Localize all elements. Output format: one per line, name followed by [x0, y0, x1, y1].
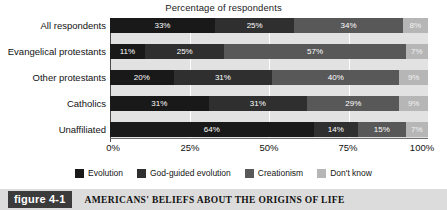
- bar-segment-god-guided-evolution: 25%: [145, 44, 225, 59]
- legend-item-dont-know[interactable]: Don't know: [317, 168, 372, 178]
- bar-segment-evolution: 20%: [110, 70, 174, 85]
- legend-swatch-icon: [75, 169, 84, 178]
- bar-segment-dont-know: 7%: [406, 44, 428, 59]
- bar-segment-god-guided-evolution: 25%: [215, 18, 295, 33]
- bar-row-all-respondents: 33% 25% 34% 8%: [110, 18, 428, 33]
- category-label-catholics: Catholics: [0, 96, 106, 111]
- legend-item-god-guided-evolution[interactable]: God-guided evolution: [137, 168, 231, 178]
- legend-label: God-guided evolution: [150, 168, 231, 178]
- legend-label: Creationism: [258, 168, 303, 178]
- bar-segment-evolution: 31%: [110, 96, 209, 111]
- bar-segment-evolution: 33%: [110, 18, 215, 33]
- category-axis: All respondents Evangelical protestants …: [0, 18, 106, 139]
- bar-segment-creationism: 34%: [294, 18, 402, 33]
- x-axis-tick-labels: 0% 25% 50% 75% 100%: [110, 142, 428, 156]
- category-label-unaffiliated: Unaffiliated: [0, 122, 106, 137]
- figure-caption-bar: figure 4-1 AMERICANS' BELIEFS ABOUT THE …: [0, 189, 447, 210]
- bar-segment-creationism: 57%: [224, 44, 405, 59]
- bar-segment-creationism: 15%: [358, 122, 406, 137]
- chart-title: Percentage of respondents: [0, 2, 447, 13]
- bar-segment-dont-know: 9%: [399, 70, 428, 85]
- bar-segment-creationism: 29%: [307, 96, 399, 111]
- chart-legend: Evolution God-guided evolution Creationi…: [0, 168, 447, 178]
- x-tick-0: 0%: [106, 142, 120, 153]
- bar-segment-god-guided-evolution: 14%: [314, 122, 359, 137]
- bar-segment-creationism: 40%: [272, 70, 399, 85]
- legend-label: Don't know: [330, 168, 372, 178]
- x-tick-100: 100%: [410, 142, 434, 153]
- bar-row-unaffiliated: 64% 14% 15% 7%: [110, 122, 428, 137]
- category-label-all-respondents: All respondents: [0, 18, 106, 33]
- bar-segment-dont-know: 9%: [399, 96, 428, 111]
- bar-row-other-protestants: 20% 31% 40% 9%: [110, 70, 428, 85]
- legend-swatch-icon: [317, 169, 326, 178]
- bar-segment-dont-know: 7%: [406, 122, 428, 137]
- legend-item-creationism[interactable]: Creationism: [245, 168, 303, 178]
- x-tick-50: 50%: [259, 142, 278, 153]
- category-label-other-protestants: Other protestants: [0, 70, 106, 85]
- legend-item-evolution[interactable]: Evolution: [75, 168, 123, 178]
- figure-container: Percentage of respondents All respondent…: [0, 0, 447, 210]
- bar-segment-evolution: 64%: [110, 122, 314, 137]
- x-tick-25: 25%: [180, 142, 199, 153]
- bar-segment-god-guided-evolution: 31%: [209, 96, 308, 111]
- category-label-evangelical-protestants: Evangelical protestants: [0, 44, 106, 59]
- plot-area: 33% 25% 34% 8% 11% 25% 57% 7% 20% 31% 40…: [110, 18, 428, 139]
- bar-segment-evolution: 11%: [110, 44, 145, 59]
- bar-segment-dont-know: 8%: [403, 18, 428, 33]
- figure-caption-text: AMERICANS' BELIEFS ABOUT THE ORIGINS OF …: [85, 195, 345, 205]
- legend-swatch-icon: [137, 169, 146, 178]
- x-tick-75: 75%: [338, 142, 357, 153]
- legend-label: Evolution: [88, 168, 123, 178]
- figure-number-badge: figure 4-1: [8, 191, 72, 208]
- bar-rows: 33% 25% 34% 8% 11% 25% 57% 7% 20% 31% 40…: [110, 18, 428, 139]
- bar-row-evangelical-protestants: 11% 25% 57% 7%: [110, 44, 428, 59]
- legend-swatch-icon: [245, 169, 254, 178]
- bar-segment-god-guided-evolution: 31%: [174, 70, 273, 85]
- bar-row-catholics: 31% 31% 29% 9%: [110, 96, 428, 111]
